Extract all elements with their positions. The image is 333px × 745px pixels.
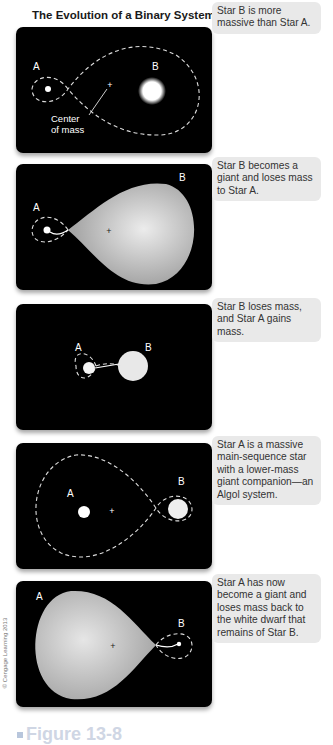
copyright-notice: © Cengage Learning 2013 bbox=[2, 618, 8, 688]
binary-orbit-diagram-1: + bbox=[16, 27, 212, 153]
figure-caption-text: Figure 13-8 bbox=[26, 724, 122, 744]
svg-text:+: + bbox=[107, 80, 112, 90]
bullet-square-icon bbox=[17, 732, 23, 738]
star-b-label: B bbox=[145, 342, 152, 353]
panel-stage-5: + A B bbox=[16, 581, 212, 707]
svg-text:+: + bbox=[106, 226, 111, 236]
center-of-mass-label: Center bbox=[51, 113, 80, 124]
panel-stage-3: A B bbox=[16, 304, 212, 430]
center-of-mass-label-line2: of mass bbox=[51, 124, 84, 135]
figure-caption: Figure 13-8 bbox=[17, 724, 122, 745]
svg-text:+: + bbox=[109, 506, 114, 516]
star-b-label: B bbox=[178, 476, 185, 487]
star-a-label: A bbox=[33, 61, 40, 72]
star-b-label: B bbox=[179, 172, 186, 183]
panel-stage-2: + A B bbox=[16, 164, 212, 290]
svg-text:+: + bbox=[110, 641, 115, 651]
callout-stage-5: Star A has now become a giant and loses … bbox=[212, 574, 321, 643]
binary-orbit-diagram-5: + bbox=[16, 581, 212, 707]
binary-orbit-diagram-4: + bbox=[16, 443, 212, 569]
binary-orbit-diagram-3 bbox=[16, 304, 212, 430]
callout-stage-4: Star A is a massive main-sequence star w… bbox=[212, 436, 321, 505]
star-a-label: A bbox=[33, 202, 40, 213]
panel-stage-4: + A B bbox=[16, 443, 212, 569]
diagram-title: The Evolution of a Binary System bbox=[32, 9, 215, 21]
callout-stage-3: Star B loses mass, and Star A gains mass… bbox=[212, 298, 321, 342]
callout-stage-2: Star B becomes a giant and loses mass to… bbox=[212, 157, 321, 201]
star-a-label: A bbox=[36, 591, 43, 602]
star-b-label: B bbox=[152, 61, 159, 72]
star-a-label: A bbox=[67, 488, 74, 499]
star-a-label: A bbox=[75, 342, 82, 353]
star-b-label: B bbox=[178, 618, 185, 629]
callout-stage-1: Star B is more massive than Star A. bbox=[212, 2, 321, 34]
panel-stage-1: + A B Center of mass bbox=[16, 27, 212, 153]
